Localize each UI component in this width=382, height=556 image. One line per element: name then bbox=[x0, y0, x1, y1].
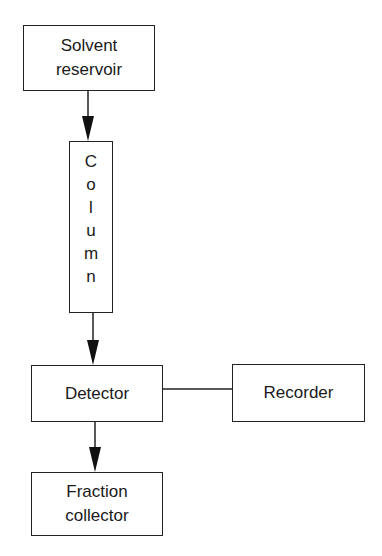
arrow-column-to-detector bbox=[87, 313, 99, 365]
column-label-letter: o bbox=[86, 173, 95, 196]
arrowhead-icon bbox=[82, 116, 94, 141]
arrow-detector-to-fraction bbox=[89, 422, 101, 472]
column-label-letter: u bbox=[86, 219, 95, 242]
recorder-node: Recorder bbox=[232, 364, 365, 422]
solvent-reservoir-label-line-2: reservoir bbox=[56, 58, 122, 82]
arrowhead-icon bbox=[89, 447, 101, 472]
column-label-letter: n bbox=[86, 265, 95, 288]
solvent-reservoir-node: Solvent reservoir bbox=[23, 25, 155, 91]
column-label-letter: l bbox=[89, 196, 93, 219]
column-label-letter: C bbox=[85, 150, 97, 173]
fraction-collector-label-line-1: Fraction bbox=[66, 480, 127, 504]
arrowhead-icon bbox=[87, 340, 99, 365]
recorder-label: Recorder bbox=[264, 381, 334, 405]
arrow-solvent-to-column bbox=[82, 91, 94, 141]
column-node: C o l u m n bbox=[69, 141, 113, 313]
fraction-collector-label-line-2: collector bbox=[65, 504, 128, 528]
detector-label: Detector bbox=[65, 382, 129, 406]
solvent-reservoir-label-line-1: Solvent bbox=[61, 34, 118, 58]
fraction-collector-node: Fraction collector bbox=[31, 472, 163, 536]
detector-node: Detector bbox=[31, 365, 163, 422]
column-label-letter: m bbox=[84, 242, 98, 265]
